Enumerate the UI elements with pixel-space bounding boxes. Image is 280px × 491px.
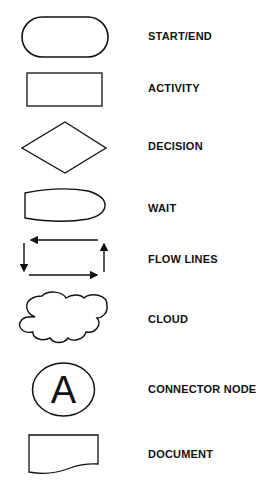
label-document: DOCUMENT (148, 448, 213, 460)
label-wait: WAIT (148, 202, 176, 214)
wait-icon (25, 189, 105, 221)
connector-letter: A (51, 369, 77, 411)
label-flow-lines: FLOW LINES (148, 253, 218, 265)
flow-lines-icon (24, 240, 104, 275)
legend-shapes: A (0, 0, 280, 491)
label-decision: DECISION (148, 140, 203, 152)
cloud-icon (20, 292, 107, 342)
label-cloud: CLOUD (148, 313, 188, 325)
activity-icon (27, 73, 102, 106)
label-activity: ACTIVITY (148, 82, 200, 94)
decision-icon (22, 122, 106, 173)
connector-node-icon: A (33, 363, 95, 416)
document-icon (29, 435, 98, 473)
flowchart-symbol-legend: A START/END ACTIVITY DECISION WAIT FLOW … (0, 0, 280, 491)
label-start-end: START/END (148, 30, 212, 42)
start-end-icon (22, 17, 108, 57)
label-connector-node: CONNECTOR NODE (148, 383, 256, 395)
